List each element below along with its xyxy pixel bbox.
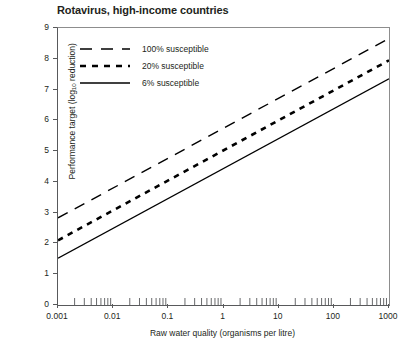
x-axis-tick-label: 1 (193, 311, 253, 321)
x-axis-tick-labels: 0.0010.010.11101001000 (0, 311, 407, 325)
plot-area: 100% susceptible 20% susceptible 6% susc… (57, 27, 390, 306)
legend-item: 100% susceptible (78, 42, 268, 59)
x-axis-tick-label: 0.1 (137, 311, 197, 321)
legend-item: 6% susceptible (78, 76, 268, 93)
legend-label-100-susceptible: 100% susceptible (142, 44, 209, 54)
x-axis-tick-mark (223, 304, 224, 308)
legend-swatch-long-dash (78, 42, 132, 56)
series-line (58, 79, 389, 258)
x-axis-tick-label: 1000 (358, 311, 407, 321)
x-axis-tick-marks (57, 304, 389, 310)
x-axis-label: Raw water quality (organisms per litre) (57, 328, 388, 338)
chart-legend: 100% susceptible 20% susceptible 6% susc… (78, 42, 268, 93)
legend-label-20-susceptible: 20% susceptible (142, 61, 204, 71)
x-axis-tick-mark (278, 304, 279, 308)
x-axis-tick-mark (388, 304, 389, 308)
legend-swatch-solid (78, 76, 132, 90)
x-axis-tick-label: 100 (303, 311, 363, 321)
x-axis-tick-label: 10 (248, 311, 308, 321)
x-axis-tick-mark (167, 304, 168, 308)
x-axis-tick-mark (333, 304, 334, 308)
y-axis-tick-marks (0, 0, 57, 345)
chart-figure: Rotavirus, high-income countries Perform… (0, 0, 407, 345)
x-axis-tick-mark (112, 304, 113, 308)
x-axis-tick-label: 0.01 (82, 311, 142, 321)
legend-item: 20% susceptible (78, 59, 268, 76)
legend-swatch-short-dash (78, 59, 132, 73)
x-axis-tick-label: 0.001 (27, 311, 87, 321)
x-axis-tick-mark (57, 304, 58, 308)
legend-label-6-susceptible: 6% susceptible (142, 78, 199, 88)
chart-title: Rotavirus, high-income countries (57, 4, 229, 16)
